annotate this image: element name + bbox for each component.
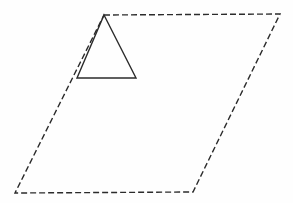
figure-canvas (0, 0, 293, 203)
parallelogram-shape (15, 14, 280, 193)
geometry-figure (0, 0, 293, 203)
triangle-shape (77, 15, 136, 78)
